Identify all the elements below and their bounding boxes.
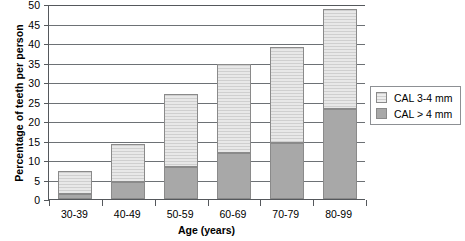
bar-40-49 [111,4,145,199]
chart-legend: CAL 3-4 mm CAL > 4 mm [370,86,461,125]
legend-label-cal-gt-4: CAL > 4 mm [394,106,452,122]
bar-80-99 [323,4,357,199]
bar-segment-cal-gt-4 [323,109,357,199]
legend-item-cal-gt-4: CAL > 4 mm [376,106,460,122]
x-axis-tick-label: 50-59 [150,208,210,220]
y-axis-tick [44,5,49,6]
bar-segment-cal-3-4 [270,47,304,143]
gridline [49,44,365,45]
x-axis-tick [155,200,156,206]
y-axis-tick [44,64,49,65]
legend-item-cal-3-4: CAL 3-4 mm [376,90,460,106]
y-axis-tick-label: 0 [0,195,40,205]
bar-segment-cal-gt-4 [111,182,145,199]
legend-swatch-icon-cal-3-4 [376,92,387,103]
gridline [49,64,365,65]
gridline [49,142,365,143]
y-axis-tick [44,142,49,143]
y-axis-tick [44,122,49,123]
bar-60-69 [217,4,251,199]
stacked-bar-chart: Percentage of teeth per person 051015202… [0,0,465,241]
y-axis-tick-label: 35 [0,59,40,69]
bar-segment-cal-gt-4 [58,194,92,199]
bar-segment-cal-gt-4 [217,153,251,199]
gridline [49,83,365,84]
x-axis-tick-label: 30-39 [44,208,104,220]
y-axis-tick [44,44,49,45]
bar-segment-cal-gt-4 [270,143,304,199]
x-axis-tick-label: 80-99 [309,208,369,220]
bar-segment-cal-3-4 [164,94,198,167]
y-axis-tick [44,181,49,182]
y-axis-tick-label: 15 [0,137,40,147]
bar-segment-cal-gt-4 [164,167,198,199]
gridline [49,122,365,123]
gridline [49,25,365,26]
gridline [49,161,365,162]
gridline [49,103,365,104]
legend-label-cal-3-4: CAL 3-4 mm [394,90,453,106]
y-axis-tick-label: 30 [0,78,40,88]
plot-area [48,5,365,200]
y-axis-tick-label: 50 [0,0,40,10]
bar-70-79 [270,4,304,199]
y-axis-tick-label: 40 [0,39,40,49]
x-axis-tick-label: 40-49 [97,208,157,220]
bar-50-59 [164,4,198,199]
gridline [49,181,365,182]
y-axis-tick [44,83,49,84]
x-axis-tick [260,200,261,206]
y-axis-tick-label: 25 [0,98,40,108]
bar-segment-cal-3-4 [111,144,145,182]
bar-segment-cal-3-4 [323,9,357,109]
x-axis-tick-label: 70-79 [256,208,316,220]
bar-segment-cal-3-4 [58,171,92,194]
y-axis-tick [44,161,49,162]
y-axis-tick-label: 20 [0,117,40,127]
y-axis-tick [44,103,49,104]
x-axis-tick [208,200,209,206]
bar-30-39 [58,4,92,199]
x-axis-tick [366,200,367,206]
gridline [49,5,365,6]
y-axis-tick-label: 10 [0,156,40,166]
x-axis-title: Age (years) [48,224,365,236]
x-axis-tick [49,200,50,206]
y-axis-tick-label: 45 [0,20,40,30]
x-axis-tick-label: 60-69 [203,208,263,220]
x-axis-tick [102,200,103,206]
y-axis-tick [44,25,49,26]
bar-segment-cal-3-4 [217,64,251,153]
y-axis-tick-label: 5 [0,176,40,186]
x-axis-tick [313,200,314,206]
legend-swatch-icon-cal-gt-4 [376,108,387,119]
